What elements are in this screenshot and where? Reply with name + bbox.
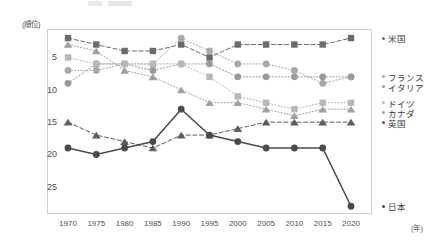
data-point	[347, 119, 356, 126]
data-point	[320, 100, 326, 106]
data-point	[121, 48, 127, 54]
series-イタリア	[65, 61, 355, 87]
legend-item-英国[interactable]: 英国	[382, 117, 406, 129]
data-point	[233, 125, 242, 132]
series-line	[68, 109, 351, 206]
data-point	[348, 100, 354, 106]
data-point	[177, 86, 186, 93]
legend-marker-icon	[382, 85, 385, 88]
data-point	[291, 106, 297, 112]
data-point	[121, 61, 127, 67]
legend-item-米国[interactable]: 米国	[382, 32, 406, 44]
data-point	[206, 132, 213, 139]
series-layer	[0, 0, 438, 251]
data-point	[206, 54, 212, 60]
legend-marker-icon	[382, 37, 385, 40]
legend-item-label: イタリア	[388, 81, 424, 93]
data-point	[319, 73, 326, 80]
data-point	[92, 48, 101, 55]
data-point	[291, 73, 298, 80]
data-point	[93, 61, 99, 67]
data-point	[121, 145, 128, 152]
data-point	[150, 48, 156, 54]
data-point	[64, 119, 73, 126]
data-point	[149, 145, 158, 152]
data-point	[150, 138, 157, 145]
series-日本	[65, 106, 355, 210]
data-point	[65, 35, 71, 41]
data-point	[320, 41, 326, 47]
data-point	[178, 35, 185, 42]
data-point	[291, 145, 298, 152]
data-point	[65, 54, 71, 60]
data-point	[263, 100, 269, 106]
data-point	[319, 145, 326, 152]
data-point	[178, 61, 184, 67]
data-point	[178, 41, 184, 47]
data-point	[319, 80, 326, 87]
legend-marker-icon	[382, 205, 385, 208]
legend: 米国フランスイタリアドイツカナダ英国日本	[378, 0, 438, 251]
legend-marker-icon	[382, 121, 385, 124]
data-point	[262, 106, 271, 113]
data-point	[150, 61, 156, 67]
data-point	[348, 73, 355, 80]
data-point	[234, 61, 241, 68]
legend-item-イタリア[interactable]: イタリア	[382, 81, 424, 93]
data-point	[206, 74, 212, 80]
data-point	[178, 106, 185, 113]
data-point	[65, 145, 72, 152]
legend-item-label: 日本	[388, 200, 406, 212]
data-point	[235, 41, 241, 47]
data-point	[235, 93, 241, 99]
data-point	[120, 67, 129, 74]
data-point	[291, 67, 298, 74]
data-point	[263, 61, 270, 68]
chart-root: (順位) 510152025 1970197519801985199019952…	[0, 0, 438, 251]
legend-item-label: 米国	[388, 32, 406, 44]
data-point	[262, 119, 271, 126]
data-point	[65, 80, 72, 87]
data-point	[93, 41, 99, 47]
legend-marker-icon	[382, 75, 385, 78]
data-point	[92, 132, 101, 139]
data-point	[291, 41, 297, 47]
data-point	[149, 74, 158, 81]
data-point	[348, 203, 355, 210]
data-point	[150, 67, 157, 74]
data-point	[263, 145, 270, 152]
data-point	[234, 138, 241, 145]
data-point	[206, 61, 213, 68]
data-point	[348, 35, 354, 41]
legend-item-label: 英国	[388, 117, 406, 129]
legend-marker-icon	[382, 101, 385, 104]
data-point	[93, 151, 100, 158]
data-point	[65, 67, 72, 74]
data-point	[263, 41, 269, 47]
data-point	[120, 138, 129, 145]
data-point	[93, 67, 100, 74]
data-point	[177, 132, 186, 139]
legend-item-日本[interactable]: 日本	[382, 200, 406, 212]
data-point	[234, 73, 241, 80]
data-point	[206, 48, 213, 55]
data-point	[64, 41, 73, 48]
data-point	[263, 73, 270, 80]
data-point	[290, 112, 299, 119]
legend-marker-icon	[382, 111, 385, 114]
